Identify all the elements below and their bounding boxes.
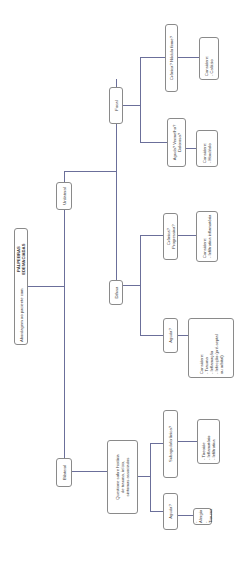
flowchart-diagram: Abordagem ao paciente com PÁLPEBRAS EDEM… <box>0 0 244 570</box>
connector <box>178 335 188 336</box>
connector <box>28 286 64 287</box>
connector <box>64 172 65 182</box>
node-bilateral: Bilateral <box>56 458 72 487</box>
connector <box>64 210 65 458</box>
node-questione: Questione sobre história de trauma, iníc… <box>107 440 138 514</box>
connector <box>123 105 140 106</box>
root-title-emphasis: PÁLPEBRAS EDEMACIADAS <box>16 231 26 287</box>
node-difusa-aguda-considere: Considere: - Trauma - Inflamação - Infec… <box>188 318 234 378</box>
node-difusa: Difusa <box>109 280 123 305</box>
node-focal-aguda: Aguda? Vermelha? Dolorosa? <box>167 118 186 167</box>
connector <box>140 235 163 236</box>
node-bilateral-aguda: Aguda? <box>163 493 178 530</box>
node-unilateral: Unilateral <box>56 182 72 210</box>
node-bilateral-subaguda-causes: - Tireoide - Inflamatório - Infiltrativa <box>197 419 220 464</box>
connector <box>150 443 163 444</box>
connector <box>178 57 199 58</box>
connector <box>116 79 117 87</box>
connector <box>140 57 165 58</box>
connector <box>72 471 107 472</box>
node-focal-cronica-considere: Considere: - Calázio <box>199 37 219 80</box>
connector <box>140 142 167 143</box>
node-difusa-cronica-considere: Considere: - Infiltrativa inflamatória <box>196 211 218 262</box>
root-node: Abordagem ao paciente com PÁLPEBRAS EDEM… <box>14 228 28 345</box>
node-bilateral-aguda-causes: - Alergia - Trauma <box>193 508 212 525</box>
root-title-prefix: Abordagem ao paciente com <box>19 287 24 342</box>
node-bilateral-subaguda: Subaguda/crônica? <box>163 410 178 478</box>
connector <box>116 124 117 292</box>
node-difusa-cronica: Crônica? Progressiva? <box>163 213 178 260</box>
node-focal: Focal <box>109 87 123 124</box>
connector <box>123 285 140 286</box>
connector <box>178 515 193 516</box>
connector <box>140 58 141 143</box>
node-focal-aguda-considere: Considere: - Hordéolo <box>196 130 218 167</box>
connector <box>64 171 116 172</box>
connector <box>140 335 163 336</box>
connector <box>140 236 141 336</box>
connector <box>178 441 197 442</box>
node-focal-cronica: Crônica? Nódulo firme? <box>165 24 178 92</box>
connector <box>138 476 150 477</box>
node-difusa-aguda: Aguda? <box>163 318 178 353</box>
connector <box>178 235 196 236</box>
connector <box>150 444 151 512</box>
connector <box>186 148 196 149</box>
connector <box>150 511 163 512</box>
